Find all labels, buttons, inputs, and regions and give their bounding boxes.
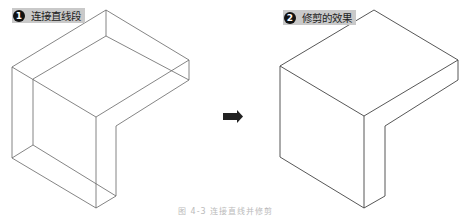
step-2-label: 2 修剪的效果	[283, 10, 356, 25]
step-2-text: 修剪的效果	[302, 10, 352, 25]
diagram-canvas	[0, 0, 466, 219]
right-trimmed-shape	[280, 10, 458, 208]
step-2-badge: 2	[284, 12, 296, 24]
step-1-badge: 1	[13, 10, 25, 22]
step-1-label: 1 连接直线段	[12, 8, 85, 23]
figure-caption: 图 4-3 连接直线并修剪	[178, 205, 273, 216]
right-arrow-icon	[223, 110, 243, 123]
step-1-text: 连接直线段	[31, 8, 81, 23]
left-wireframe	[12, 10, 189, 208]
